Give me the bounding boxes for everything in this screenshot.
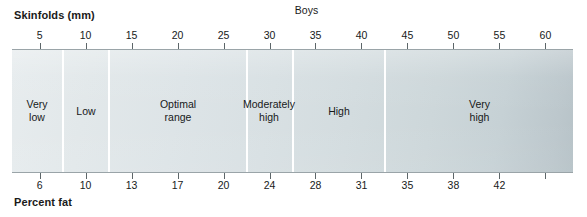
- band-label-very-low-line1: Very: [12, 98, 62, 111]
- top-tick-label-30: 30: [255, 29, 285, 41]
- bottom-tick-17: [178, 173, 179, 179]
- skinfolds-percent-fat-chart: Boys Skinfolds (mm) Percent fat Very low…: [0, 0, 587, 217]
- top-tick-35: [315, 43, 316, 49]
- bottom-tick-35: [407, 173, 408, 179]
- bottom-tick-label-28: 28: [300, 179, 330, 191]
- top-axis-line: [12, 49, 573, 50]
- top-tick-label-55: 55: [484, 29, 514, 41]
- top-tick-60: [545, 43, 546, 49]
- skinfolds-axis-title: Skinfolds (mm): [14, 9, 95, 21]
- top-tick-50: [453, 43, 454, 49]
- bottom-tick-label-17: 17: [163, 179, 193, 191]
- top-tick-label-10: 10: [71, 29, 101, 41]
- bottom-tick-31: [361, 173, 362, 179]
- bottom-tick-label-38: 38: [438, 179, 468, 191]
- bottom-tick-28: [315, 173, 316, 179]
- bottom-tick-label-42: 42: [484, 179, 514, 191]
- top-tick-10: [86, 43, 87, 49]
- band-label-very-high: Very high: [386, 98, 573, 124]
- band-label-very-high-line2: high: [386, 111, 573, 124]
- bottom-tick-label-24: 24: [255, 179, 285, 191]
- top-tick-15: [132, 43, 133, 49]
- bottom-tick-11: [545, 173, 546, 179]
- top-tick-55: [499, 43, 500, 49]
- band-label-very-low-line2: low: [12, 111, 62, 124]
- chart-title-text: Boys: [295, 4, 318, 16]
- band-label-low-line1: Low: [64, 105, 108, 118]
- top-tick-30: [270, 43, 271, 49]
- top-tick-label-50: 50: [438, 29, 468, 41]
- top-tick-40: [361, 43, 362, 49]
- top-tick-label-25: 25: [209, 29, 239, 41]
- top-tick-20: [178, 43, 179, 49]
- band-label-low: Low: [64, 105, 108, 118]
- top-tick-label-5: 5: [25, 29, 55, 41]
- bottom-tick-label-20: 20: [209, 179, 239, 191]
- bottom-tick-42: [499, 173, 500, 179]
- top-tick-label-15: 15: [117, 29, 147, 41]
- top-tick-label-20: 20: [163, 29, 193, 41]
- band-label-high: High: [294, 105, 384, 118]
- bottom-axis-line: [12, 172, 573, 173]
- bottom-tick-label-10: 10: [71, 179, 101, 191]
- bottom-tick-6: [40, 173, 41, 179]
- bottom-tick-label-31: 31: [346, 179, 376, 191]
- top-tick-label-35: 35: [300, 29, 330, 41]
- band-label-very-low: Very low: [12, 98, 62, 124]
- bottom-tick-label-6: 6: [25, 179, 55, 191]
- top-tick-label-45: 45: [392, 29, 422, 41]
- top-tick-5: [40, 43, 41, 49]
- top-tick-label-40: 40: [346, 29, 376, 41]
- bottom-tick-label-13: 13: [117, 179, 147, 191]
- top-tick-25: [224, 43, 225, 49]
- bottom-tick-10: [86, 173, 87, 179]
- bottom-tick-24: [270, 173, 271, 179]
- bottom-tick-20: [224, 173, 225, 179]
- bottom-tick-label-35: 35: [392, 179, 422, 191]
- bottom-tick-13: [132, 173, 133, 179]
- bottom-tick-38: [453, 173, 454, 179]
- band-label-high-line1: High: [294, 105, 384, 118]
- percent-fat-axis-title: Percent fat: [14, 196, 72, 208]
- top-tick-label-60: 60: [530, 29, 560, 41]
- top-tick-45: [407, 43, 408, 49]
- band-label-very-high-line1: Very: [386, 98, 573, 111]
